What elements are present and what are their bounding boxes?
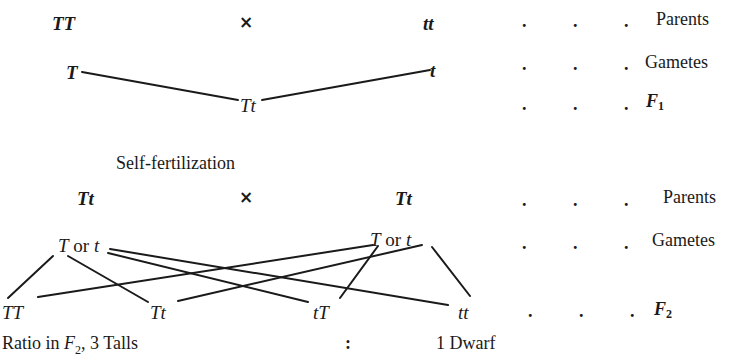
label-gametes: Gametes: [645, 53, 708, 71]
label-parents-2: Parents: [663, 188, 716, 206]
leader-dot: .: [630, 302, 635, 320]
leader-dot: .: [573, 95, 578, 113]
gamete-left-T: T: [58, 235, 69, 256]
leader-dot: .: [522, 12, 527, 30]
cross-symbol-1: ×: [239, 14, 253, 31]
f2-subscript: 2: [666, 307, 672, 321]
f2-Tt: Tt: [150, 303, 166, 322]
f2-tt: tt: [458, 303, 469, 322]
leader-dot: .: [624, 55, 629, 73]
leader-dot: .: [528, 302, 533, 320]
line-T-to-F1: [82, 72, 238, 100]
label-f2: F2: [654, 300, 672, 320]
leader-dot: .: [624, 12, 629, 30]
leader-dot: .: [522, 95, 527, 113]
leader-dot: .: [522, 234, 527, 252]
f2-tT: tT: [313, 303, 329, 322]
label-f1: F1: [646, 92, 664, 112]
ratio-dwarf: 1 Dwarf: [436, 334, 495, 352]
ratio-gen-letter: F: [64, 333, 75, 353]
f1-letter: F: [646, 91, 658, 111]
leader-dot: .: [579, 302, 584, 320]
f1-subscript: 1: [658, 99, 664, 113]
label-gametes-2: Gametes: [652, 231, 715, 249]
gamete-left-t: t: [94, 235, 99, 256]
parent-Tt-left: Tt: [77, 189, 94, 208]
leader-dot: .: [573, 12, 578, 30]
line-rightt-to-tt: [432, 247, 470, 296]
ratio-text: Ratio in F2, 3 Talls: [2, 334, 138, 356]
label-parents: Parents: [656, 10, 709, 28]
gamete-right-t: t: [406, 229, 411, 250]
leader-dot: .: [624, 234, 629, 252]
leader-dot: .: [573, 55, 578, 73]
gametes-right: T or t: [370, 230, 411, 249]
parent-TT: TT: [52, 14, 75, 33]
gamete-right-or: or: [385, 229, 401, 250]
gametes-left: T or t: [58, 236, 99, 255]
self-fertilization-label: Self-fertilization: [116, 154, 235, 172]
cross-symbol-2: ×: [239, 189, 253, 206]
line-leftT-to-Tt: [68, 256, 148, 302]
parent-tt: tt: [423, 14, 434, 33]
f1-Tt: Tt: [240, 96, 256, 115]
f2-letter: F: [654, 299, 666, 319]
leader-dot: .: [573, 191, 578, 209]
gamete-t: t: [430, 61, 435, 80]
ratio-prefix: Ratio in: [2, 333, 64, 353]
leader-dot: .: [522, 55, 527, 73]
gamete-right-T: T: [370, 229, 381, 250]
f2-TT: TT: [2, 303, 23, 322]
leader-dot: .: [624, 191, 629, 209]
gamete-T: T: [66, 63, 78, 82]
ratio-colon: :: [345, 334, 351, 352]
parent-Tt-right: Tt: [395, 189, 412, 208]
leader-dot: .: [624, 95, 629, 113]
line-leftT-to-TT: [8, 256, 53, 298]
leader-dot: .: [522, 191, 527, 209]
ratio-talls: , 3 Talls: [81, 333, 138, 353]
leader-dot: .: [573, 234, 578, 252]
gamete-left-or: or: [73, 235, 89, 256]
line-t-to-F1: [262, 70, 430, 100]
line-rightt-to-Tt: [178, 245, 422, 301]
